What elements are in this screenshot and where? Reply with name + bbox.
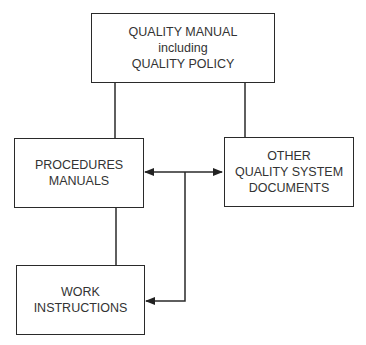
node-text-line: OTHER bbox=[267, 148, 311, 164]
node-text-line: QUALITY SYSTEM bbox=[235, 164, 343, 180]
node-text-line: PROCEDURES bbox=[35, 157, 123, 173]
node-text-line: INSTRUCTIONS bbox=[34, 300, 128, 316]
node-quality-manual: QUALITY MANUAL including QUALITY POLICY bbox=[91, 13, 275, 83]
node-text-line: QUALITY POLICY bbox=[132, 56, 235, 72]
node-text-line: WORK bbox=[61, 284, 100, 300]
node-text-line: including bbox=[158, 40, 207, 56]
node-text-line: DOCUMENTS bbox=[249, 180, 330, 196]
node-text-line: MANUALS bbox=[49, 173, 109, 189]
arrow-to-work-instructions bbox=[146, 172, 185, 301]
node-work-instructions: WORK INSTRUCTIONS bbox=[16, 265, 145, 335]
node-text-line: QUALITY MANUAL bbox=[129, 24, 238, 40]
node-other-documents: OTHER QUALITY SYSTEM DOCUMENTS bbox=[224, 137, 354, 207]
node-procedures-manuals: PROCEDURES MANUALS bbox=[14, 138, 144, 208]
